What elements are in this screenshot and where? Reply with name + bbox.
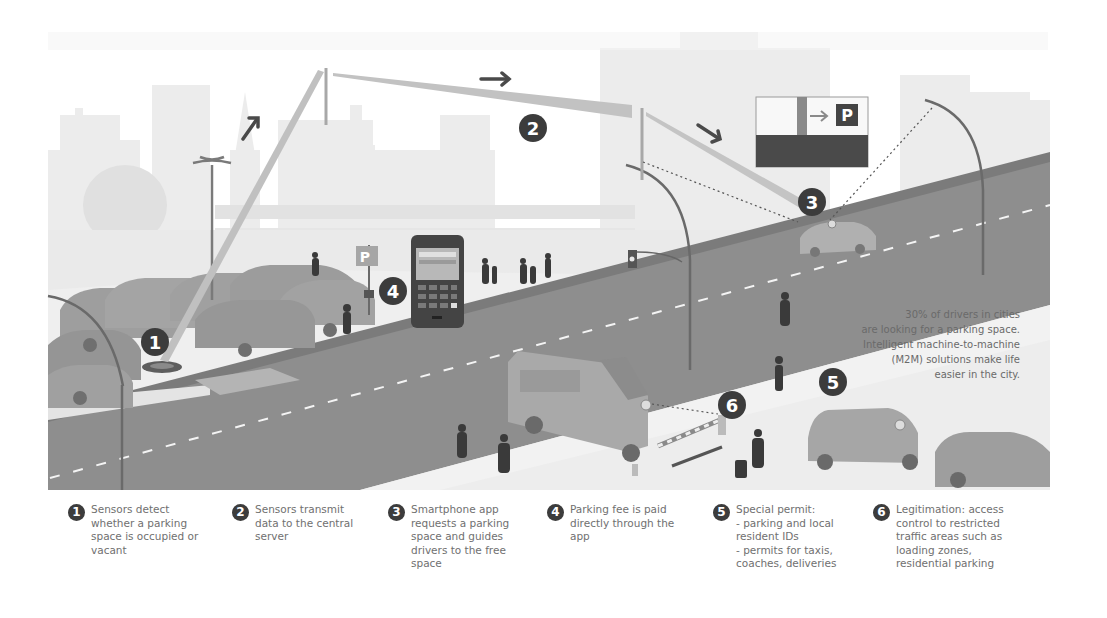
svg-text:4: 4	[387, 281, 400, 302]
guidance-sign-letter: P	[841, 106, 853, 125]
overpass	[215, 205, 635, 219]
badge-2: 2	[519, 114, 547, 142]
legend-item-5: 5 Special permit: - parking and local re…	[713, 503, 836, 571]
svg-text:6: 6	[726, 395, 739, 416]
legend-description: Legitimation: access control to restrict…	[896, 503, 1004, 571]
svg-text:3: 3	[806, 192, 819, 213]
svg-text:1: 1	[149, 332, 162, 353]
legend-number-badge: 5	[713, 504, 730, 521]
badge-4: 4	[379, 277, 407, 305]
traffic-cone	[632, 464, 638, 476]
parking-sign-letter: P	[360, 249, 370, 265]
legend-description: Smartphone app requests a parking space …	[411, 503, 509, 571]
legend-number-badge: 1	[68, 504, 85, 521]
legend-item-3: 3 Smartphone app requests a parking spac…	[388, 503, 509, 571]
legend-number-badge: 4	[547, 504, 564, 521]
legend-item-2: 2 Sensors transmit data to the central s…	[232, 503, 353, 544]
legend-number-badge: 6	[873, 504, 890, 521]
svg-text:2: 2	[527, 118, 540, 139]
smart-parking-illustration: P P	[0, 0, 1107, 490]
legend-description: Special permit: - parking and local resi…	[736, 503, 836, 571]
badge-6: 6	[718, 391, 746, 419]
legend-item-6: 6 Legitimation: access control to restri…	[873, 503, 1004, 571]
legend-item-1: 1 Sensors detect whether a parking space…	[68, 503, 198, 557]
faded-background-strip	[48, 32, 1048, 50]
legend-description: Sensors detect whether a parking space i…	[91, 503, 198, 557]
legend-number-badge: 3	[388, 504, 405, 521]
legend-description: Parking fee is paid directly through the…	[570, 503, 674, 544]
legend-description: Sensors transmit data to the central ser…	[255, 503, 353, 544]
badge-3: 3	[798, 188, 826, 216]
legend-item-4: 4 Parking fee is paid directly through t…	[547, 503, 674, 544]
legend-number-badge: 2	[232, 504, 249, 521]
badge-1: 1	[141, 328, 169, 356]
arrow-icon-right	[481, 73, 509, 85]
parking-guidance-display: P	[756, 97, 868, 167]
statistic-callout: 30% of drivers in cities are looking for…	[820, 307, 1020, 382]
legend: 1 Sensors detect whether a parking space…	[0, 503, 1107, 613]
smartphone-icon	[411, 235, 464, 328]
